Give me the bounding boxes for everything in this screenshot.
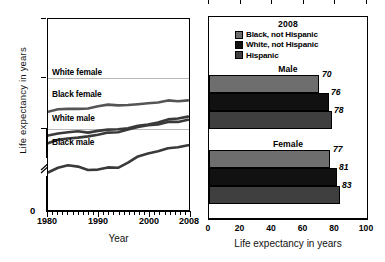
group-label-female: Female <box>209 139 367 149</box>
x-axis-title-left: Year <box>47 233 190 244</box>
line-white-female <box>48 100 188 111</box>
x-tick-mark-0 <box>208 0 209 4</box>
series-label-black-female: Black female <box>52 90 102 98</box>
x-axis-minor-tick-2001 <box>154 211 155 215</box>
x-axis-minor-tick-1988 <box>88 211 89 215</box>
x-axis-minor-tick-1992 <box>108 211 109 215</box>
x-axis-minor-tick-2003 <box>165 211 166 215</box>
x-tick-label-40: 40 <box>257 224 285 233</box>
x-tick-label-1990: 1990 <box>78 217 118 226</box>
x-tick-mark-60 <box>303 0 304 4</box>
legend: 2008 Black, not Hispanic White, not Hisp… <box>209 19 367 60</box>
figure-two-panel: Life expectancy in years 100 80 60 0 <box>0 0 385 262</box>
x-axis-minor-tick-1981 <box>52 211 53 215</box>
bar-female-white <box>209 168 337 186</box>
x-axis-minor-tick-2007 <box>185 211 186 215</box>
legend-item-hispanic: Hispanic <box>209 51 367 60</box>
x-tick-label-2000: 2000 <box>129 217 169 226</box>
x-axis-title-right: Life expectancy in years <box>208 238 368 249</box>
x-axis-minor-tick-1994 <box>119 211 120 215</box>
legend-item-black-not-hispanic: Black, not Hispanic <box>209 30 367 39</box>
x-tick-mark-100 <box>366 0 367 4</box>
bar-value-female-hispanic: 83 <box>342 181 352 190</box>
legend-label-black-not-hispanic: Black, not Hispanic <box>246 30 318 39</box>
legend-swatch-icon-white-not-hispanic <box>235 41 243 49</box>
legend-label-white-not-hispanic: White, not Hispanic <box>246 40 318 49</box>
x-axis-minor-tick-1982 <box>57 211 58 215</box>
x-axis-minor-tick-1993 <box>113 211 114 215</box>
x-axis-minor-tick-1985 <box>73 211 74 215</box>
x-tick-mark-80 <box>334 0 335 4</box>
x-axis-minor-tick-2006 <box>180 211 181 215</box>
x-axis-right <box>208 219 368 220</box>
x-axis-minor-tick-1995 <box>124 211 125 215</box>
x-tick-label-1980: 1980 <box>27 217 67 226</box>
x-axis-minor-tick-2002 <box>159 211 160 215</box>
bar-value-male-hispanic: 78 <box>334 106 344 115</box>
bar-male-hispanic <box>209 111 332 129</box>
bar-male-white <box>209 93 329 111</box>
series-label-white-female: White female <box>52 68 102 76</box>
x-axis-minor-tick-1998 <box>139 211 140 215</box>
bar-female-black <box>209 150 330 168</box>
series-label-white-male: White male <box>52 114 95 122</box>
y-tick-mark-100 <box>41 18 46 19</box>
x-axis-minor-tick-1997 <box>134 211 135 215</box>
y-axis-title-left: Life expectancy in years <box>17 26 28 176</box>
x-tick-label-0: 0 <box>194 224 222 233</box>
legend-swatch-icon-hispanic <box>235 51 243 59</box>
legend-label-hispanic: Hispanic <box>246 51 279 60</box>
bar-value-female-white: 81 <box>339 163 349 172</box>
x-tick-label-100: 100 <box>352 224 380 233</box>
bar-value-female-black: 77 <box>333 145 343 154</box>
x-axis-minor-tick-1999 <box>144 211 145 215</box>
x-axis-minor-tick-1996 <box>129 211 130 215</box>
y-tick-mark-80 <box>41 77 46 78</box>
x-tick-mark-20 <box>240 0 241 4</box>
bar-male-black <box>209 75 319 93</box>
x-axis-minor-tick-1986 <box>78 211 79 215</box>
legend-item-white-not-hispanic: White, not Hispanic <box>209 40 367 49</box>
bar-value-male-black: 70 <box>322 70 332 79</box>
group-label-male: Male <box>209 64 367 74</box>
x-tick-label-60: 60 <box>289 224 317 233</box>
x-axis-minor-tick-2005 <box>175 211 176 215</box>
x-tick-label-20: 20 <box>226 224 254 233</box>
bar-value-male-white: 76 <box>331 88 341 97</box>
line-plot-area: White female Black female White male Bla… <box>47 18 190 211</box>
legend-swatch-icon-black-not-hispanic <box>235 31 243 39</box>
x-tick-mark-40 <box>271 0 272 4</box>
x-axis-minor-tick-1983 <box>62 211 63 215</box>
line-black-male <box>48 145 188 172</box>
x-axis-minor-tick-1989 <box>93 211 94 215</box>
x-axis-minor-tick-1984 <box>67 211 68 215</box>
line-chart-panel: Life expectancy in years 100 80 60 0 <box>0 0 197 262</box>
bar-chart-panel: 2008 Black, not Hispanic White, not Hisp… <box>200 0 385 262</box>
bar-female-hispanic <box>209 186 340 204</box>
x-axis-minor-tick-1987 <box>83 211 84 215</box>
series-label-black-male: Black male <box>52 138 94 146</box>
y-tick-label-0: 0 <box>30 205 35 216</box>
x-axis-minor-tick-1991 <box>103 211 104 215</box>
x-tick-label-80: 80 <box>320 224 348 233</box>
x-axis-minor-tick-2004 <box>170 211 171 215</box>
legend-title: 2008 <box>209 19 367 29</box>
